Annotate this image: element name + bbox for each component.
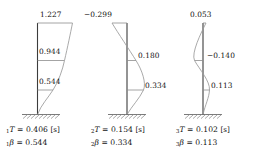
mode-2-beta-symbol: β <box>94 138 98 147</box>
mode-2-period-symbol: T <box>94 125 99 134</box>
mode-2-period-unit: [s] <box>135 125 144 134</box>
mode-1-beta-symbol: β <box>9 138 13 147</box>
mode-3-amplitude-1: 0.113 <box>211 82 233 89</box>
mode-2-period-line: 2T = 0.154 [s] <box>91 124 177 137</box>
mode-1-period-unit: [s] <box>50 125 59 134</box>
mode-1-curve <box>38 23 73 115</box>
mode-3-period-symbol: T <box>179 125 184 134</box>
mode-2-period-eq: = <box>102 125 108 134</box>
mode-3-amplitude-3: 0.053 <box>190 11 212 18</box>
fixed-base-support-1 <box>22 115 60 119</box>
mode-1-period-symbol: T <box>9 125 14 134</box>
mode-2-amplitude-1: 0.334 <box>145 82 167 89</box>
mode-1-caption: 1T = 0.406 [s] 1β = 0.544 <box>0 124 92 151</box>
mode-2-beta-line: 2β = 0.334 <box>91 137 177 150</box>
mode-shape-panel-2: −0.299 0.180 0.334 2T = 0.154 [s] 2β = 0… <box>85 0 171 159</box>
mode-1-beta-eq: = <box>16 138 22 147</box>
mode-1-amplitude-2: 0.944 <box>39 48 61 55</box>
mode-3-period-value: 0.102 <box>196 125 218 134</box>
mode-2-beta-eq: = <box>101 138 107 147</box>
mode-3-period-line: 3T = 0.102 [s] <box>176 124 259 137</box>
mode-1-beta-line: 1β = 0.544 <box>6 137 92 150</box>
mode-shape-panel-3: 0.053 −0.140 0.113 3T = 0.102 [s] 3β = 0… <box>170 0 256 159</box>
mode-3-plot <box>170 0 256 122</box>
fixed-base-support-2 <box>108 115 146 119</box>
mode-3-period-unit: [s] <box>220 125 229 134</box>
mode-shape-figure: 1.227 0.944 0.544 1T = 0.406 [s] 1β = 0.… <box>0 0 259 159</box>
mode-2-period-value: 0.154 <box>111 125 133 134</box>
mode-1-amplitude-3: 1.227 <box>40 11 62 18</box>
mode-1-beta-value: 0.544 <box>25 138 47 147</box>
mode-3-caption: 3T = 0.102 [s] 3β = 0.113 <box>170 124 259 151</box>
mode-1-amplitude-1: 0.544 <box>39 78 61 85</box>
mode-3-beta-symbol: β <box>179 138 183 147</box>
mode-2-caption: 2T = 0.154 [s] 2β = 0.334 <box>85 124 177 151</box>
mode-3-curve <box>194 23 210 115</box>
mode-1-period-eq: = <box>17 125 23 134</box>
mode-3-beta-value: 0.113 <box>195 138 217 147</box>
fixed-base-support-3 <box>184 115 222 119</box>
mode-3-beta-eq: = <box>186 138 192 147</box>
mode-3-period-eq: = <box>187 125 193 134</box>
mode-shape-panel-1: 1.227 0.944 0.544 1T = 0.406 [s] 1β = 0.… <box>0 0 86 159</box>
mode-2-amplitude-2: 0.180 <box>138 52 160 59</box>
mode-1-period-line: 1T = 0.406 [s] <box>6 124 92 137</box>
mode-3-beta-line: 3β = 0.113 <box>176 137 259 150</box>
mode-1-period-value: 0.406 <box>26 125 48 134</box>
mode-2-beta-value: 0.334 <box>110 138 132 147</box>
mode-2-amplitude-3: −0.299 <box>84 11 112 18</box>
mode-3-amplitude-2: −0.140 <box>207 52 235 59</box>
mode-2-curve <box>112 23 144 115</box>
